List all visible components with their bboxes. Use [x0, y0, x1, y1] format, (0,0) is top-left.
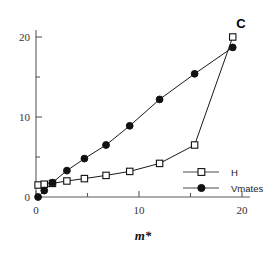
data-point-open-square	[35, 182, 41, 188]
data-point-filled-circle	[41, 187, 48, 194]
data-point-open-square	[41, 181, 47, 187]
data-point-filled-circle	[229, 44, 236, 51]
x-axis-ticks	[36, 191, 242, 197]
chart-figure: 01020 01020 m* C HVmates	[0, 0, 275, 253]
data-point-open-square	[103, 172, 109, 178]
x-tick-label: 0	[33, 204, 39, 216]
data-point-filled-circle	[35, 194, 42, 201]
y-axis-tick-labels: 01020	[19, 31, 31, 203]
data-point-open-square	[127, 168, 133, 174]
series-vmates	[35, 44, 236, 200]
data-point-filled-circle	[156, 96, 163, 103]
series-h	[35, 34, 236, 188]
data-point-filled-circle	[191, 70, 198, 77]
series-line	[38, 37, 233, 185]
y-tick-label: 20	[19, 31, 31, 43]
x-tick-label: 10	[134, 204, 146, 216]
data-point-filled-circle	[64, 167, 71, 174]
x-tick-label: 20	[237, 204, 249, 216]
chart-legend: HVmates	[183, 167, 263, 194]
x-axis-title: m*	[135, 228, 152, 243]
data-series-group	[35, 34, 236, 201]
legend-marker-filled-circle	[198, 184, 205, 191]
data-point-open-square	[81, 175, 87, 181]
data-point-filled-circle	[49, 179, 56, 186]
y-tick-label: 0	[25, 191, 31, 203]
data-point-filled-circle	[103, 142, 110, 149]
data-point-open-square	[64, 178, 70, 184]
legend-label-vmates: Vmates	[231, 183, 263, 194]
x-axis-tick-labels: 01020	[33, 204, 248, 216]
legend-marker-open-square	[198, 169, 205, 176]
data-point-filled-circle	[81, 155, 88, 162]
data-point-open-square	[156, 160, 162, 166]
y-tick-label: 10	[19, 111, 31, 123]
panel-label: C	[236, 16, 246, 31]
y-axis-ticks	[36, 37, 42, 197]
legend-label-h: H	[231, 167, 238, 178]
data-point-open-square	[230, 34, 236, 40]
data-point-filled-circle	[126, 122, 133, 129]
data-point-open-square	[191, 142, 197, 148]
line-chart: 01020 01020 m* C HVmates	[0, 0, 275, 253]
